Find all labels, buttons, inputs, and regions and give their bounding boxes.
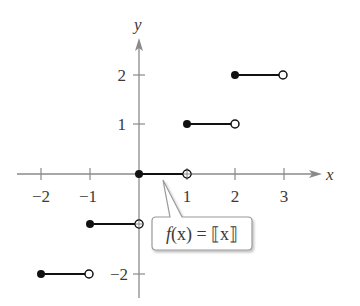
y-tick-label: 2 [118, 66, 127, 85]
x-tick-label: −1 [79, 187, 97, 206]
closed-point [183, 120, 191, 128]
closed-point [86, 220, 94, 228]
closed-point [135, 170, 143, 178]
open-point [231, 120, 239, 128]
closed-point [231, 71, 239, 79]
y-tick-label: −2 [110, 265, 128, 284]
x-tick-label: 3 [280, 187, 289, 206]
open-point [279, 71, 287, 79]
x-tick-label: 2 [231, 187, 240, 206]
y-tick-label: 1 [118, 115, 127, 134]
x-tick-label: −2 [32, 187, 50, 206]
open-point [85, 270, 93, 278]
x-tick-label: 1 [183, 187, 192, 206]
x-axis-label: x [325, 165, 334, 184]
closed-point [37, 270, 45, 278]
y-axis: y 2 1 −2 [110, 15, 145, 298]
y-axis-label: y [132, 15, 142, 34]
x-axis: x −2 −1 1 2 3 [17, 165, 334, 206]
step-function-graph: x −2 −1 1 2 3 y 2 1 −2 [0, 0, 360, 306]
callout-label: f(x) = ⟦x⟧ [166, 224, 238, 245]
